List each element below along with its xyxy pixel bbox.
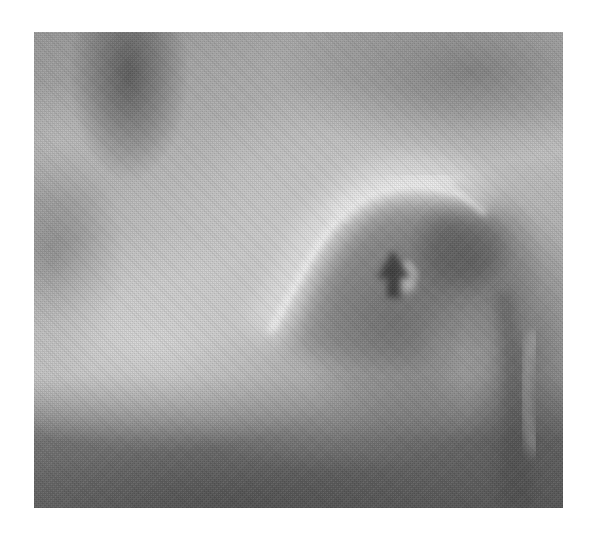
- radiograph-image: [34, 32, 563, 508]
- figure-canvas: [0, 0, 597, 541]
- radiograph-structures: [34, 32, 563, 508]
- joint-space: [422, 207, 506, 287]
